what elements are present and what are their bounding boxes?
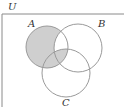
venn-diagram: U A B C xyxy=(0,0,126,109)
set-c-label: C xyxy=(62,97,70,108)
universe-label: U xyxy=(8,1,17,12)
set-b-label: B xyxy=(97,18,105,29)
set-a-label: A xyxy=(27,18,35,29)
